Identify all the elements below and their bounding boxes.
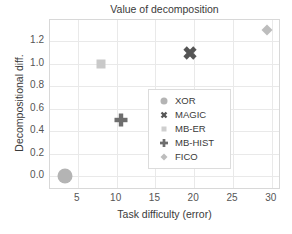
legend-label: MB-HIST	[175, 136, 214, 150]
x-tick-label: 15	[139, 192, 169, 204]
legend-label: XOR	[175, 94, 196, 108]
legend-label: MB-ER	[175, 122, 206, 136]
legend-item-magic[interactable]: MAGIC	[153, 108, 225, 122]
x-icon	[153, 108, 175, 122]
circle-icon	[153, 94, 175, 108]
legend-item-mb-hist[interactable]: MB-HIST	[153, 136, 225, 150]
data-point-mb-hist	[113, 112, 130, 129]
legend-item-fico[interactable]: FICO	[153, 150, 225, 164]
x-gridline	[233, 20, 234, 188]
y-axis-label: Decompositional diff.	[13, 18, 25, 188]
x-axis-label: Task difficulty (error)	[49, 208, 280, 220]
x-gridline	[117, 20, 118, 188]
data-point-magic	[181, 44, 199, 62]
x-tick-label: 5	[62, 192, 92, 204]
legend-item-xor[interactable]: XOR	[153, 94, 225, 108]
chart-title: Value of decomposition	[49, 2, 280, 16]
x-tick-label: 25	[217, 192, 247, 204]
y-gridline	[50, 41, 279, 42]
x-tick-label: 20	[178, 192, 208, 204]
diamond-icon	[153, 150, 175, 164]
chart-figure: Value of decomposition 51015202530 0.00.…	[0, 0, 292, 234]
x-tick-label: 10	[101, 192, 131, 204]
legend-label: FICO	[175, 150, 198, 164]
data-point-fico	[260, 23, 275, 38]
legend-item-mb-er[interactable]: MB-ER	[153, 122, 225, 136]
y-gridline	[50, 64, 279, 65]
x-tick-label: 30	[256, 192, 286, 204]
legend-label: MAGIC	[175, 108, 206, 122]
x-gridline	[78, 20, 79, 188]
square-icon	[153, 122, 175, 136]
x-gridline	[272, 20, 273, 188]
data-point-xor	[55, 167, 74, 186]
data-point-mb-er	[95, 57, 108, 70]
y-gridline	[50, 176, 279, 177]
legend: XORMAGICMB-ERMB-HISTFICO	[148, 89, 231, 169]
y-gridline	[50, 86, 279, 87]
plus-icon	[153, 136, 175, 150]
